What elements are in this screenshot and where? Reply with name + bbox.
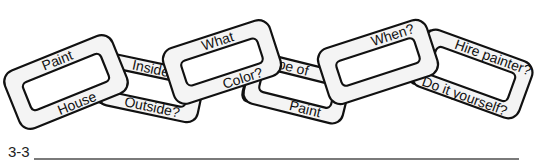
chain-link-5: When? (315, 16, 441, 107)
chain-diagram: Inside or Outside? Paint House Type of P… (0, 0, 537, 140)
chain-link-1: Paint House (0, 31, 131, 133)
caption-rule (34, 158, 519, 160)
figure-label: 3-3 (8, 143, 30, 160)
